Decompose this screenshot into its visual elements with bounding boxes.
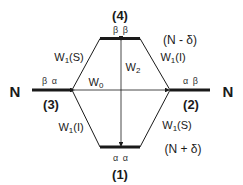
transition-label-w2: W2 [126, 62, 141, 75]
level-3-population: N [10, 84, 21, 99]
transition-label-w0: W0 [89, 77, 104, 90]
level-1-spin: α α [113, 154, 129, 163]
energy-level-diagram: (4) β β (N - δ) α α (1) (N + δ) N β α (3… [0, 0, 243, 185]
level-3-number: (3) [43, 98, 59, 111]
level-2-spin: α β [183, 77, 199, 86]
level-1-population: (N + δ) [164, 143, 201, 155]
connector-3-1 [72, 90, 100, 147]
level-2-number: (2) [183, 98, 199, 111]
level-3-spin: β α [42, 77, 58, 86]
transition-label-w1i-lower: W1(I) [58, 122, 83, 135]
transition-label-w1s-upper: W1(S) [54, 52, 84, 65]
level-4-spin: β β [113, 26, 129, 35]
transition-label-w1i-upper: W1(I) [160, 52, 185, 65]
level-4-number: (4) [112, 9, 128, 22]
level-2-population: N [223, 84, 234, 99]
level-1-number: (1) [112, 168, 128, 181]
level-4-population: (N - δ) [163, 34, 197, 46]
transition-label-w1s-lower: W1(S) [162, 120, 192, 133]
